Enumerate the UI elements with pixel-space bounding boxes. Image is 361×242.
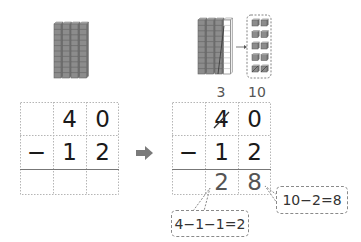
tens-callout: 4−1−1=2: [171, 210, 249, 237]
tens-callout-pointer: [193, 188, 210, 211]
ones-callout: 10−2=8: [276, 186, 348, 214]
